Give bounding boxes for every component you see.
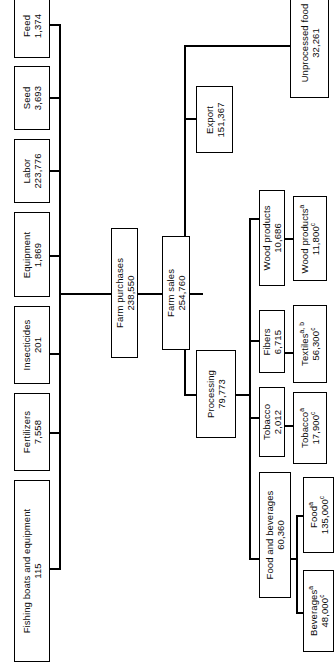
node-seed-label: Seed 3,693 [21, 86, 43, 110]
node-equipment[interactable]: Equipment 1,869 [14, 212, 50, 297]
node-beverages-out[interactable]: Beveragesa 48,000c [303, 570, 334, 652]
connector-food-bev-split [296, 515, 298, 613]
node-wood-products-out-label: Wood productsa 11,800c [299, 204, 321, 273]
node-fertilizers-label: Fertilizers 7,558 [21, 411, 43, 453]
connector-insecticides-stub [49, 353, 60, 355]
connector-fishing-stub [49, 568, 60, 570]
node-farm-sales[interactable]: Farm sales 254,760 [162, 236, 190, 350]
connector-inputs-spine [59, 24, 61, 570]
connector-wood-products-link [284, 238, 293, 240]
node-export-label: Export 151,367 [203, 102, 225, 137]
connector-labor-stub [49, 170, 60, 172]
node-food-out-label: Fooda 135,000c [307, 496, 329, 534]
node-textiles-out[interactable]: Textilesa, b 56,300c [293, 305, 327, 383]
connector-farm-sales-to-outputs [189, 293, 203, 295]
node-fibers-label: Fibers 6,715 [261, 328, 283, 355]
connector-spine-to-farm-purchases [59, 293, 111, 295]
node-labor[interactable]: Labor 223,776 [14, 139, 50, 203]
node-tobacco[interactable]: Tobacco 2,012 [259, 387, 285, 457]
node-tobacco-out-label: Tobaccoa 17,900c [299, 408, 321, 448]
connector-equipment-stub [49, 255, 60, 257]
flow-diagram: Feed 1,374 Seed 3,693 Labor 223,776 Equi… [0, 0, 334, 669]
node-beverages-out-label: Beveragesa 48,000c [307, 586, 329, 636]
connector-seed-stub [49, 97, 60, 99]
node-insecticides-label: Insecticides 201 [21, 320, 43, 371]
node-food-and-beverages[interactable]: Food and beverages 60,360 [259, 472, 291, 598]
node-wood-products-out[interactable]: Wood productsa 11,800c [293, 196, 327, 281]
node-feed-label: Feed 1,374 [21, 13, 43, 37]
node-equipment-label: Equipment 1,869 [21, 231, 43, 277]
node-unprocessed-food[interactable]: Unprocessed food 32,261 [290, 0, 329, 98]
node-fertilizers[interactable]: Fertilizers 7,558 [14, 393, 50, 471]
connector-tobacco-link [284, 425, 293, 427]
connector-farm-purchases-to-farm-sales [137, 293, 163, 295]
node-fishing-boats[interactable]: Fishing boats and equipment 115 [14, 480, 50, 662]
connector-spine-to-unprocessed-food [184, 45, 291, 47]
connector-feed-stub [49, 24, 60, 26]
node-textiles-out-label: Textilesa, b 56,300c [299, 322, 321, 366]
connector-fibers-link [284, 352, 293, 354]
connector-processing-to-subspine [236, 394, 250, 396]
node-processing[interactable]: Processing 79,773 [196, 350, 236, 438]
node-food-out[interactable]: Fooda 135,000c [303, 477, 334, 553]
node-fishing-boats-label: Fishing boats and equipment 115 [21, 509, 43, 634]
node-seed[interactable]: Seed 3,693 [14, 66, 50, 130]
connector-fertilizers-stub [49, 432, 60, 434]
node-feed[interactable]: Feed 1,374 [14, 0, 50, 58]
node-export[interactable]: Export 151,367 [196, 86, 233, 153]
node-unprocessed-food-label: Unprocessed food 32,261 [298, 4, 320, 83]
node-processing-label: Processing 79,773 [205, 370, 227, 418]
node-tobacco-out[interactable]: Tobaccoa 17,900c [293, 392, 327, 464]
node-farm-purchases[interactable]: Farm purchases 238,550 [111, 228, 138, 358]
node-farm-sales-label: Farm sales 254,760 [165, 269, 187, 317]
node-fibers[interactable]: Fibers 6,715 [259, 310, 285, 373]
node-insecticides[interactable]: Insecticides 201 [14, 306, 50, 384]
node-farm-purchases-label: Farm purchases 238,550 [113, 258, 135, 328]
node-wood-products-label: Wood products 10,686 [261, 205, 283, 270]
node-labor-label: Labor 223,776 [21, 153, 43, 188]
node-tobacco-label: Tobacco 2,012 [261, 404, 283, 440]
node-wood-products[interactable]: Wood products 10,686 [259, 190, 285, 286]
node-food-and-beverages-label: Food and beverages 60,360 [264, 491, 286, 580]
connector-processing-subspine [249, 218, 251, 558]
